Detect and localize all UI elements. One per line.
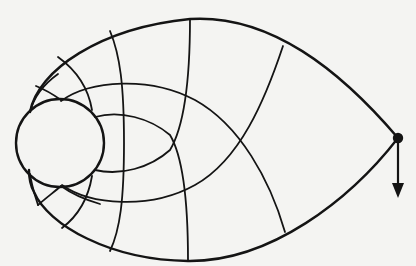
flow-net-figure: flow-net diagram <box>0 0 416 266</box>
down-arrow-icon <box>392 140 404 198</box>
tip-layer <box>0 0 416 266</box>
